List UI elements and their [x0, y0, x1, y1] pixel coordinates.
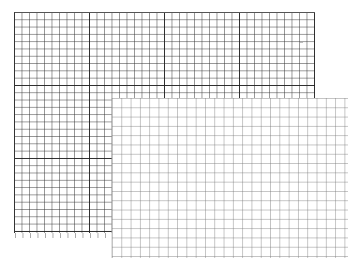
light-graph-paper-sheet	[112, 98, 348, 258]
speck-mark	[300, 42, 303, 43]
